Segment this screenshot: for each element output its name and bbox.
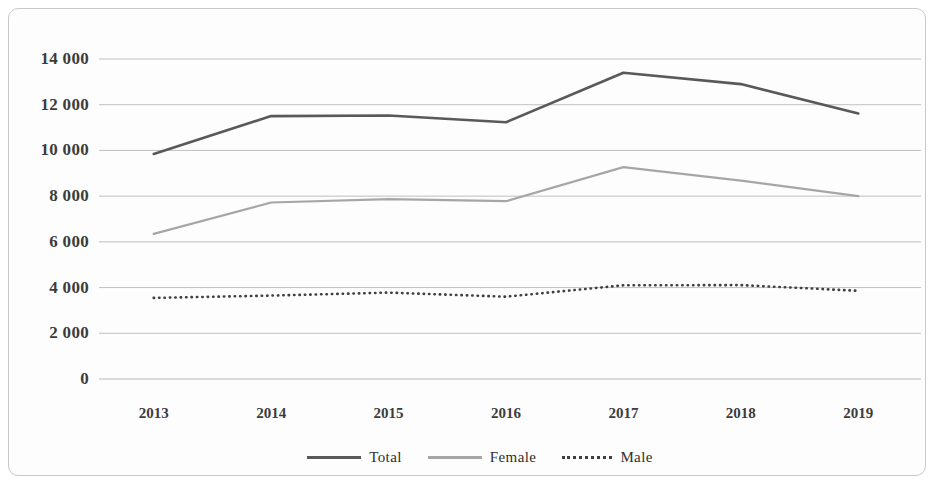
legend-label: Total xyxy=(369,449,402,466)
series-line-male xyxy=(154,285,859,298)
legend-label: Female xyxy=(490,449,537,466)
legend-item-total[interactable]: Total xyxy=(307,449,402,466)
series-lines-group xyxy=(154,73,859,298)
y-axis-tick-label: 2 000 xyxy=(11,323,89,343)
legend-swatch-total-icon xyxy=(307,456,361,459)
legend-swatch-male-icon xyxy=(562,456,612,459)
legend-swatch-female-icon xyxy=(428,456,482,458)
y-axis-tick-label: 12 000 xyxy=(11,95,89,115)
y-axis-tick-label: 10 000 xyxy=(11,140,89,160)
legend-item-male[interactable]: Male xyxy=(562,449,652,466)
x-axis-tick-label: 2016 xyxy=(476,405,536,422)
x-axis-tick-label: 2019 xyxy=(828,405,888,422)
chart-legend: TotalFemaleMale xyxy=(9,449,942,466)
x-axis-tick-label: 2014 xyxy=(241,405,301,422)
legend-label: Male xyxy=(620,449,652,466)
x-axis-tick-label: 2015 xyxy=(359,405,419,422)
y-axis-tick-label: 0 xyxy=(11,369,89,389)
y-axis-tick-label: 14 000 xyxy=(11,49,89,69)
series-line-total xyxy=(154,73,859,154)
chart-container: 02 0004 0006 0008 00010 00012 00014 000 … xyxy=(8,8,926,476)
legend-item-female[interactable]: Female xyxy=(428,449,537,466)
y-axis-tick-label: 4 000 xyxy=(11,278,89,298)
y-axis-tick-label: 6 000 xyxy=(11,232,89,252)
series-line-female xyxy=(154,167,859,234)
gridlines-group xyxy=(99,59,921,379)
x-axis-tick-label: 2017 xyxy=(593,405,653,422)
y-axis-tick-label: 8 000 xyxy=(11,186,89,206)
x-axis-tick-label: 2018 xyxy=(711,405,771,422)
x-axis-tick-label: 2013 xyxy=(124,405,184,422)
